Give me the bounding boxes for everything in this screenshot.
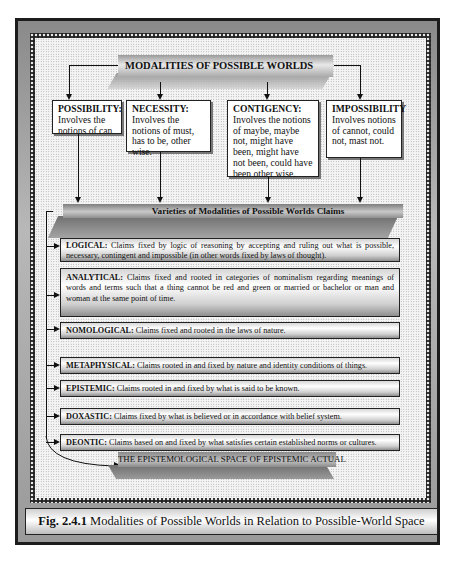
connector-possibility-down xyxy=(78,134,79,198)
claim-arrow-line xyxy=(46,329,54,330)
claim-heading: ANALYTICAL: xyxy=(66,273,123,282)
claim-doxastic: DOXASTIC: Claims fixed by what is believ… xyxy=(60,408,400,425)
claim-text: Claims fixed and rooted in the laws of n… xyxy=(136,326,286,335)
claim-nomological: NOMOLOGICAL: Claims fixed and rooted in … xyxy=(60,322,400,339)
connector-contigency-down xyxy=(268,177,269,198)
epistemic-actual-banner: THE EPISTEMOLOGICAL SPACE OF EPISTEMIC A… xyxy=(118,452,336,478)
caption-text: Modalities of Possible Worlds in Relatio… xyxy=(87,514,425,528)
claim-arrow-line xyxy=(46,388,54,389)
claim-epistemic: EPISTEMIC: Claims rooted in and fixed by… xyxy=(60,380,400,397)
varieties-banner-shadow xyxy=(48,216,398,238)
claim-logical: LOGICAL: Claims fixed by logic of reason… xyxy=(60,238,400,262)
connector-contigency xyxy=(267,82,268,94)
claim-text: Claims based on and fixed by what satisf… xyxy=(109,438,377,447)
connector-necessity xyxy=(160,82,161,94)
epistemic-actual-banner-shadow xyxy=(108,465,334,479)
connector-left-h xyxy=(69,65,118,66)
connector-left-v xyxy=(69,65,70,95)
claim-heading: LOGICAL: xyxy=(66,241,107,250)
necessity-box: NECESSITY: Involves the notions of must,… xyxy=(126,100,211,152)
connector-right-h xyxy=(334,65,360,66)
contigency-text: Involves the notions of maybe, maybe not… xyxy=(233,114,312,179)
connector-impossibility-down xyxy=(360,158,361,198)
claim-text: Claims rooted in and fixed by nature and… xyxy=(137,361,367,370)
possibility-text: Involves the notions of can xyxy=(58,114,112,134)
claim-heading: NOMOLOGICAL: xyxy=(66,326,134,335)
connector-necessity-down xyxy=(160,152,161,198)
arrow-down-icon xyxy=(357,197,363,203)
claim-arrow-line xyxy=(46,442,54,443)
claim-analytical: ANALYTICAL: Claims fixed and rooted in c… xyxy=(60,268,400,317)
claim-metaphysical: METAPHYSICAL: Claims rooted in and fixed… xyxy=(60,357,400,374)
claim-arrow-line xyxy=(46,246,54,247)
claim-heading: DEONTIC: xyxy=(66,438,107,447)
epistemic-actual-label: THE EPISTEMOLOGICAL SPACE OF EPISTEMIC A… xyxy=(118,452,336,467)
diagram-title: MODALITIES OF POSSIBLE WORLDS xyxy=(118,55,333,77)
claim-deontic: DEONTIC: Claims based on and fixed by wh… xyxy=(60,434,400,451)
impossibility-text: Involves notions of cannot, could not, m… xyxy=(332,114,396,147)
varieties-banner: Varieties of Modalities of Possible Worl… xyxy=(63,204,403,237)
connector-right-v xyxy=(360,65,361,95)
claim-heading: DOXASTIC: xyxy=(66,412,112,421)
possibility-box: POSSIBILITY: Involves the notions of can xyxy=(52,100,122,134)
claim-arrow-line xyxy=(46,416,54,417)
contigency-box: CONTIGENCY: Involves the notions of mayb… xyxy=(227,100,319,177)
title-banner: MODALITIES OF POSSIBLE WORLDS xyxy=(118,55,333,95)
claim-text: Claims fixed by what is believed or in a… xyxy=(114,412,342,421)
claim-arrow-line xyxy=(46,365,54,366)
claim-arrow-line xyxy=(46,295,54,296)
varieties-title: Varieties of Modalities of Possible Worl… xyxy=(63,204,403,218)
figure-caption: Fig. 2.4.1 Modalities of Possible Worlds… xyxy=(25,508,438,535)
impossibility-box: IMPOSSIBILITY Involves notions of cannot… xyxy=(326,100,402,158)
claim-heading: EPISTEMIC: xyxy=(66,384,115,393)
claim-text: Claims fixed by logic of reasoning by ac… xyxy=(66,241,394,260)
claim-heading: METAPHYSICAL: xyxy=(66,361,135,370)
necessity-text: Involves the notions of must, has to be,… xyxy=(132,114,194,157)
caption-label: Fig. 2.4.1 xyxy=(38,514,87,528)
arrow-down-icon xyxy=(75,197,81,203)
claims-bracket-top xyxy=(46,211,53,212)
arrow-down-icon xyxy=(157,197,163,203)
claim-text: Claims rooted in and fixed by what is sa… xyxy=(117,384,300,393)
arrow-down-icon xyxy=(265,197,271,203)
